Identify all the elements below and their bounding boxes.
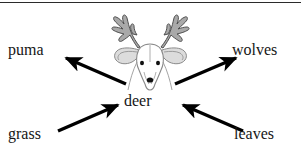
node-label-wolves: wolves (232, 42, 277, 58)
node-label-deer: deer (124, 93, 152, 109)
node-label-puma: puma (8, 42, 44, 58)
arrow-grass-to-deer (58, 105, 118, 131)
node-label-leaves: leaves (234, 126, 274, 142)
node-label-grass: grass (8, 126, 41, 142)
food-chain-diagram: puma wolves deer grass leaves (0, 0, 301, 155)
arrow-deer-to-wolves (175, 58, 236, 84)
arrow-deer-to-puma (66, 58, 126, 84)
